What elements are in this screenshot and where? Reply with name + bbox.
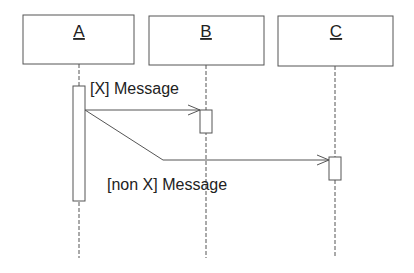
object-c-label: C [330,22,342,41]
message-x[interactable]: [X] Message [85,80,200,110]
object-b[interactable]: B [149,16,264,65]
object-a-label: A [73,22,85,41]
activation-a[interactable] [73,86,85,201]
sequence-diagram: A B C [X] Message [non X] Message [0,0,414,273]
message-non-x-label: [non X] Message [107,176,227,193]
object-a[interactable]: A [23,15,134,64]
message-x-label: [X] Message [90,80,179,97]
object-b-label: B [200,22,211,41]
object-c[interactable]: C [278,16,393,66]
activation-c[interactable] [329,157,341,180]
activation-b[interactable] [200,110,212,133]
